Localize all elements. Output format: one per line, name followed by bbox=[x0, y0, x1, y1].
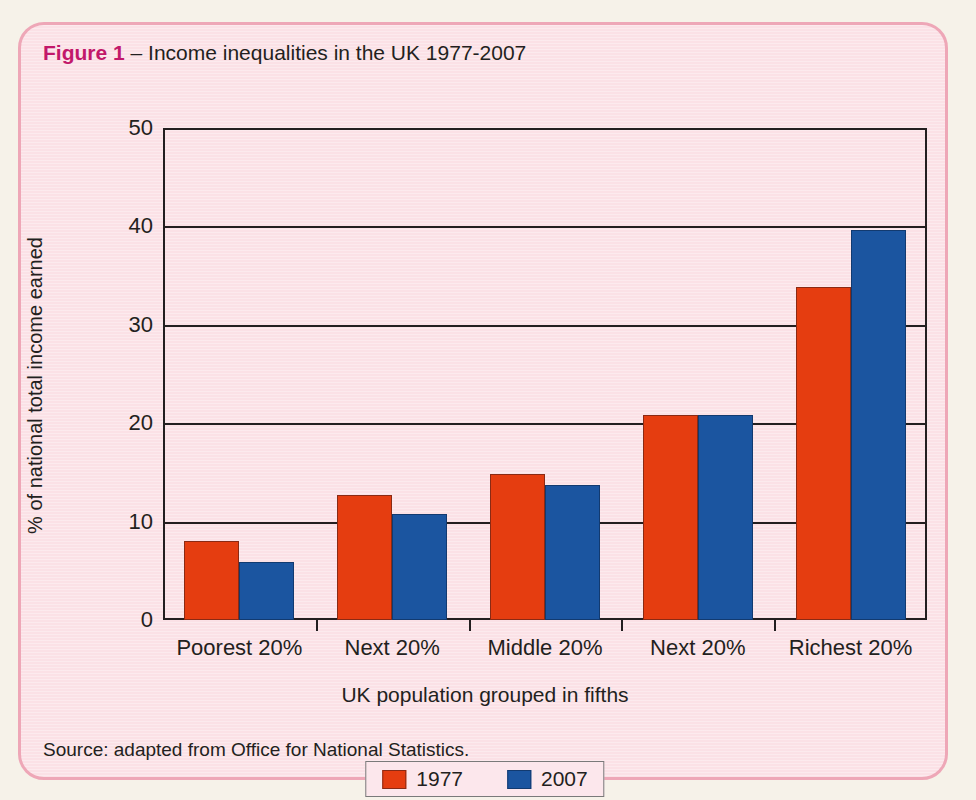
figure-title-text: Income inequalities in the UK 1977-2007 bbox=[148, 41, 526, 64]
legend-item-1977: 1977 bbox=[382, 767, 463, 791]
figure-title-dash: – bbox=[125, 41, 148, 64]
bar-2007-poorest-20 bbox=[239, 562, 294, 620]
figure-screenshot: Figure 1 – Income inequalities in the UK… bbox=[0, 0, 976, 800]
x-axis-separator-1 bbox=[316, 620, 318, 631]
bar-2007-richest-20 bbox=[851, 230, 906, 620]
bar-2007-next-20 bbox=[698, 415, 753, 620]
legend-label-2007: 2007 bbox=[541, 767, 588, 791]
figure-number-label: Figure 1 bbox=[43, 41, 125, 64]
y-tick-label-40: 40 bbox=[107, 213, 153, 239]
y-tick-label-30: 30 bbox=[107, 312, 153, 338]
figure-panel: Figure 1 – Income inequalities in the UK… bbox=[18, 22, 948, 780]
bar-1977-poorest-20 bbox=[184, 541, 239, 620]
x-tick-label-2: Middle 20% bbox=[469, 635, 622, 661]
x-axis-title: UK population grouped in fifths bbox=[35, 683, 935, 707]
y-tick-label-10: 10 bbox=[107, 509, 153, 535]
bar-1977-next-20 bbox=[643, 415, 698, 620]
chart-area: % of national total income earned 504030… bbox=[35, 83, 935, 703]
x-tick-label-4: Richest 20% bbox=[774, 635, 927, 661]
x-axis-separator-2 bbox=[469, 620, 471, 631]
x-tick-label-1: Next 20% bbox=[316, 635, 469, 661]
legend-swatch-1977 bbox=[382, 770, 406, 789]
y-tick-label-20: 20 bbox=[107, 410, 153, 436]
legend-item-2007: 2007 bbox=[507, 767, 588, 791]
plot-region bbox=[163, 128, 927, 620]
bar-1977-next-20 bbox=[337, 495, 392, 620]
y-axis-tick-labels: 50403020100 bbox=[97, 128, 153, 620]
figure-title: Figure 1 – Income inequalities in the UK… bbox=[43, 41, 526, 65]
y-axis-title: % of national total income earned bbox=[24, 196, 47, 576]
y-tick-label-50: 50 bbox=[107, 115, 153, 141]
y-tick-label-0: 0 bbox=[107, 607, 153, 633]
legend-label-1977: 1977 bbox=[416, 767, 463, 791]
figure-source: Source: adapted from Office for National… bbox=[43, 739, 469, 761]
bar-1977-middle-20 bbox=[490, 474, 545, 620]
x-axis-separator-4 bbox=[774, 620, 776, 631]
bar-1977-richest-20 bbox=[796, 287, 851, 620]
chart-legend: 1977 2007 bbox=[365, 761, 604, 797]
bar-2007-next-20 bbox=[392, 514, 447, 620]
legend-swatch-2007 bbox=[507, 770, 531, 789]
gridline-40 bbox=[163, 226, 927, 228]
x-tick-label-3: Next 20% bbox=[621, 635, 774, 661]
x-axis-separator-3 bbox=[621, 620, 623, 631]
bar-2007-middle-20 bbox=[545, 485, 600, 620]
x-tick-label-0: Poorest 20% bbox=[163, 635, 316, 661]
